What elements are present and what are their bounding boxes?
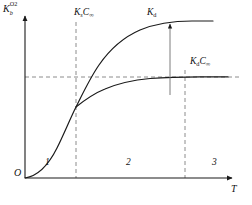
kdcinf-c-subscript: ∞	[206, 60, 210, 67]
kdcinf-label: KdC∞	[190, 57, 210, 67]
y-axis-label: KO2b	[3, 4, 10, 14]
region-label-2: 2	[126, 158, 131, 168]
kd-label: Kd	[147, 8, 156, 18]
x-axis-label: T	[231, 184, 237, 194]
kscinf-label: KsC∞	[74, 8, 94, 18]
region-label-1: 1	[45, 158, 50, 168]
kd-subscript: d	[153, 11, 156, 18]
chart-figure: KO2b T O KsC∞ Kd KdC∞ 1 2 3	[0, 0, 252, 205]
origin-label: O	[14, 168, 21, 178]
kscinf-c-subscript: ∞	[89, 11, 93, 18]
y-axis-label-subscript: b	[10, 10, 13, 16]
region-label-3: 3	[212, 158, 217, 168]
y-axis-label-base: K	[3, 3, 10, 14]
plot-canvas	[0, 0, 252, 205]
y-axis-label-superscript: O2	[10, 1, 18, 7]
lower-curve	[76, 77, 228, 107]
